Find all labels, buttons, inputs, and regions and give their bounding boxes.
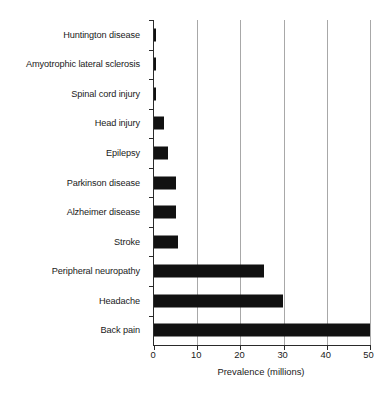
x-axis-tick-labels: 0 10 20 30 40 50 [153,349,369,363]
bar-back-pain [154,324,370,337]
y-tick-3 [149,109,154,110]
x-axis-title: Prevalence (millions) [153,366,369,378]
x-tick-label-20: 20 [234,349,244,360]
category-label-epilepsy: Epilepsy [106,148,140,158]
category-label-huntington-disease: Huntington disease [63,30,140,40]
bar-stroke [154,235,178,248]
gridline-40 [327,20,328,345]
y-tick-5 [149,168,154,169]
bar-spinal-cord-injury [154,87,156,100]
category-label-head-injury: Head injury [95,118,140,128]
x-tick-label-40: 40 [321,349,331,360]
y-tick-4 [149,138,154,139]
category-label-parkinson-disease: Parkinson disease [67,178,140,188]
category-label-spinal-cord-injury: Spinal cord injury [71,89,140,99]
plot-area [153,20,370,346]
bar-head-injury [154,117,164,130]
bar-parkinson-disease [154,176,176,189]
category-label-amyotrophic-lateral-sclerosis: Amyotrophic lateral sclerosis [26,59,140,69]
bar-epilepsy [154,146,168,159]
bar-peripheral-neuropathy [154,265,264,278]
bar-headache [154,294,283,307]
y-tick-7 [149,227,154,228]
category-label-back-pain: Back pain [101,325,140,335]
y-tick-6 [149,197,154,198]
bar-amyotrophic-lateral-sclerosis [154,58,156,71]
category-label-headache: Headache [99,296,140,306]
y-tick-0 [149,20,154,21]
y-tick-8 [149,256,154,257]
bar-huntington-disease [154,28,156,41]
gridline-30 [284,20,285,345]
category-label-peripheral-neuropathy: Peripheral neuropathy [52,266,140,276]
category-label-alzheimer-disease: Alzheimer disease [67,207,140,217]
x-tick-label-0: 0 [150,349,155,360]
category-label-stroke: Stroke [114,237,140,247]
y-tick-10 [149,316,154,317]
x-tick-label-30: 30 [277,349,287,360]
y-tick-9 [149,286,154,287]
x-tick-label-10: 10 [191,349,201,360]
prevalence-bar-chart: Huntington disease Amyotrophic lateral s… [0,0,387,397]
x-tick-label-50: 50 [363,349,373,360]
gridline-50 [370,20,371,345]
bar-alzheimer-disease [154,206,176,219]
y-tick-1 [149,50,154,51]
category-axis-labels: Huntington disease Amyotrophic lateral s… [0,20,146,345]
y-tick-2 [149,79,154,80]
